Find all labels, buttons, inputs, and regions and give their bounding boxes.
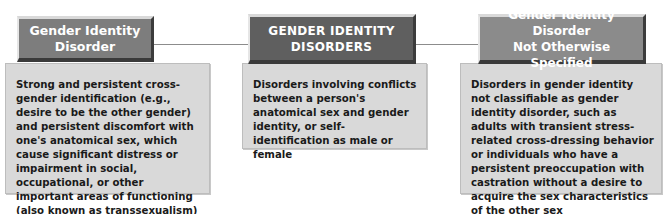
node-header-gender-identity-disorder: Gender Identity Disorder <box>17 16 154 62</box>
node-title-line-2: Not Otherwise Specified <box>480 39 643 71</box>
node-description: Strong and persistent cross-gender ident… <box>16 79 197 214</box>
connector-left <box>154 44 248 45</box>
node-description: Disorders in gender identity not classif… <box>471 79 654 214</box>
node-body-gender-identity-disorders: Disorders involving conflicts between a … <box>242 63 427 149</box>
node-description: Disorders involving conflicts between a … <box>253 79 416 160</box>
node-title: Gender Identity Disorder <box>19 23 151 55</box>
node-title-line-2: DISORDERS <box>268 39 394 55</box>
connector-right <box>416 44 478 45</box>
node-body-gender-identity-disorder: Strong and persistent cross-gender ident… <box>5 63 210 194</box>
node-header-gender-identity-disorder-nos: Gender Identity Disorder Not Otherwise S… <box>478 14 646 64</box>
node-title-line-1: GENDER IDENTITY <box>268 23 394 39</box>
node-header-gender-identity-disorders: GENDER IDENTITY DISORDERS <box>248 14 416 64</box>
node-body-gender-identity-disorder-nos: Disorders in gender identity not classif… <box>460 63 662 194</box>
node-title-line-1: Gender Identity Disorder <box>480 7 643 39</box>
